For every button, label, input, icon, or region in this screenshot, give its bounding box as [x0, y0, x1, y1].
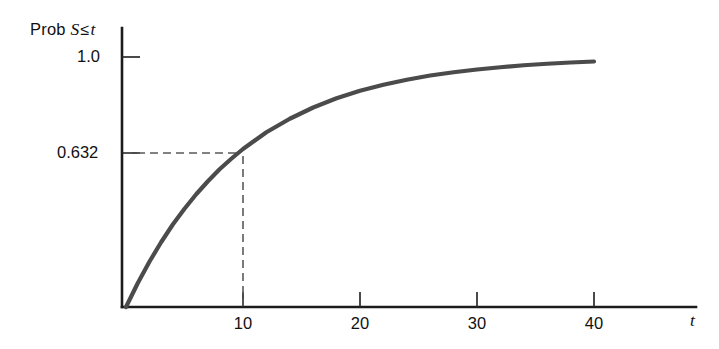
y-axis-label-argument: t: [90, 19, 95, 39]
y-tick-label-0.632: 0.632: [57, 144, 98, 161]
x-tick-label-30: 30: [468, 315, 486, 332]
y-axis-label-relation: ≤: [79, 21, 90, 38]
chart-figure: Prob S≤t 1.0 0.632 10 20 30 40 t: [0, 0, 719, 349]
y-tick-label-1.0: 1.0: [77, 48, 100, 65]
x-tick-label-40: 40: [585, 315, 603, 332]
y-axis-label: Prob S≤t: [30, 21, 95, 39]
y-axis-label-prefix: Prob: [30, 20, 66, 38]
x-axis-label: t: [690, 312, 695, 330]
x-tick-label-20: 20: [351, 315, 369, 332]
x-tick-label-10: 10: [234, 315, 252, 332]
cdf-curve: [126, 62, 594, 308]
chart-plot-area: [0, 0, 719, 349]
